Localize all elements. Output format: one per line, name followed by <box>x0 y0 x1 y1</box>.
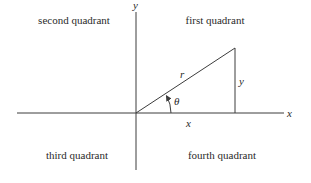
second-quadrant-label: second quadrant <box>38 14 110 26</box>
hypotenuse-label: r <box>180 68 185 80</box>
fourth-quadrant-label: fourth quadrant <box>188 149 256 161</box>
third-quadrant-label: third quadrant <box>46 149 108 161</box>
hypotenuse-r <box>136 48 235 113</box>
opposite-label: y <box>238 75 244 87</box>
angle-arc-arrow-icon <box>167 96 172 113</box>
y-axis-label: y <box>132 0 138 11</box>
adjacent-label: x <box>185 117 191 129</box>
polar-coordinate-diagram: x y first quadrant second quadrant third… <box>0 0 311 183</box>
angle-label: θ <box>174 95 180 107</box>
first-quadrant-label: first quadrant <box>186 14 245 26</box>
x-axis-label: x <box>286 107 292 119</box>
